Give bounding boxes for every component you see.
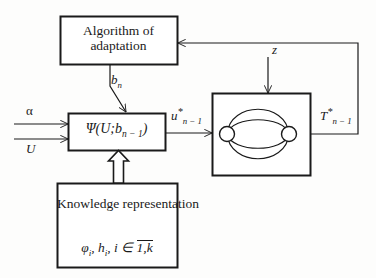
plant-node-left: [220, 127, 235, 142]
alpha-signal-label: α: [26, 103, 33, 119]
plant-node-right: [282, 127, 297, 142]
knowledge-arrow: [109, 151, 129, 184]
T-star-subscript: n − 1: [332, 116, 351, 126]
bn-subscript: n: [118, 80, 122, 90]
algorithm-of-adaptation-block: [61, 17, 178, 65]
bn-signal-label: bn: [111, 72, 122, 90]
z-base: z: [272, 42, 277, 57]
u-star-subscript: n − 1: [183, 116, 202, 126]
T-star-signal-label: T*n − 1: [320, 106, 352, 126]
U-signal-label: U: [26, 141, 35, 157]
u-star-signal-label: u*n − 1: [171, 106, 202, 126]
psi-operator-block: [69, 114, 166, 151]
block-diagram-canvas: Algorithm of adaptation Ψ(U;bn − 1) Know…: [0, 0, 376, 278]
alpha-base: α: [26, 103, 33, 118]
diagram-vector-layer: [0, 0, 376, 278]
U-base: U: [26, 141, 35, 156]
z-signal-label: z: [272, 42, 277, 58]
knowledge-representation-block: [58, 184, 178, 268]
